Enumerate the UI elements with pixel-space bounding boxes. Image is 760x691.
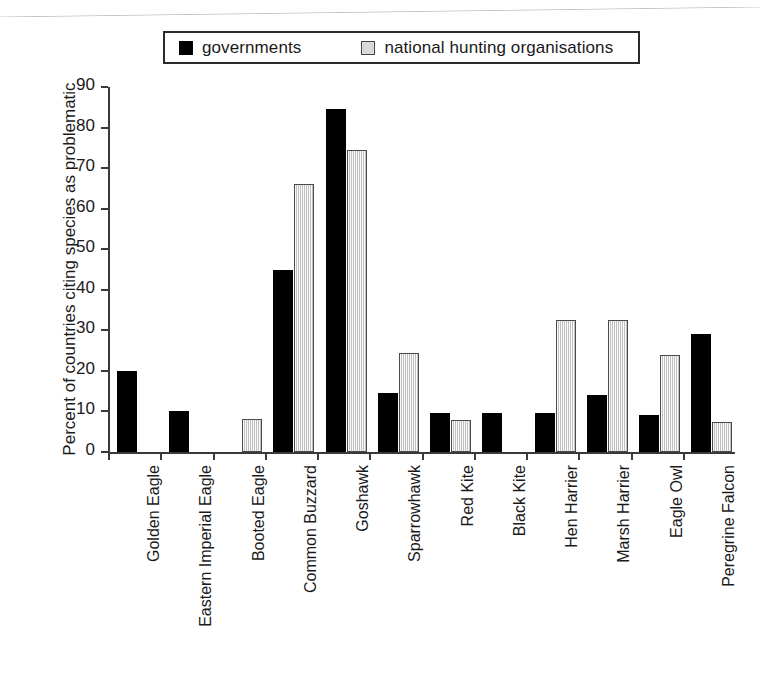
bar-national-hunting-organisations-peregrine-falcon (712, 422, 732, 452)
y-axis-tick-label: 0 (86, 440, 95, 460)
x-axis-label: Hen Harrier (563, 465, 581, 548)
x-axis-label: Golden Eagle (145, 465, 163, 562)
bar-governments-black-kite (482, 413, 502, 452)
x-axis-tick (578, 452, 580, 460)
x-axis-tick (108, 452, 110, 460)
x-axis-tick (317, 452, 319, 460)
bar-governments-peregrine-falcon (691, 334, 711, 452)
y-axis-tick-label: 90 (76, 75, 95, 95)
bar-national-hunting-organisations-eagle-owl (660, 355, 680, 452)
y-axis-tick: 60 (101, 208, 108, 210)
bar-governments-marsh-harrier (587, 395, 607, 452)
x-axis-tick (474, 452, 476, 460)
x-axis-label: Black Kite (511, 465, 529, 536)
y-axis-tick: 30 (101, 329, 108, 331)
bar-national-hunting-organisations-booted-eagle (242, 419, 262, 452)
chart-page: governments national hunting organisatio… (0, 0, 760, 691)
y-axis-tick: 70 (101, 167, 108, 169)
x-axis-tick (422, 452, 424, 460)
x-axis-tick (526, 452, 528, 460)
x-axis-tick (369, 452, 371, 460)
x-axis-label: Sparrowhawk (406, 465, 424, 562)
y-axis-tick-label: 50 (76, 237, 95, 257)
bar-national-hunting-organisations-red-kite (451, 420, 471, 452)
x-axis-label: Goshawk (354, 465, 372, 532)
bar-governments-eagle-owl (639, 415, 659, 452)
y-axis-tick: 0 (101, 451, 108, 453)
plot-area: 0102030405060708090 Golden EagleEastern … (108, 87, 735, 452)
y-axis-tick-label: 40 (76, 278, 95, 298)
y-axis-line (108, 87, 110, 452)
chart-legend: governments national hunting organisatio… (163, 31, 640, 64)
bar-governments-red-kite (430, 413, 450, 452)
bar-governments-sparrowhawk (378, 393, 398, 452)
bar-governments-eastern-imperial-eagle (169, 411, 189, 452)
legend-label-governments: governments (202, 38, 301, 58)
scan-artifact-line (0, 7, 760, 17)
y-axis-tick-label: 20 (76, 359, 95, 379)
bar-national-hunting-organisations-hen-harrier (556, 320, 576, 452)
x-axis-tick (160, 452, 162, 460)
bar-governments-goshawk (326, 109, 346, 452)
y-axis-tick-label: 10 (76, 399, 95, 419)
y-axis-tick-label: 70 (76, 156, 95, 176)
x-axis-tick (683, 452, 685, 460)
bar-national-hunting-organisations-sparrowhawk (399, 353, 419, 452)
x-axis-label: Booted Eagle (250, 465, 268, 561)
y-axis-tick: 90 (101, 86, 108, 88)
legend-swatch-governments-icon (179, 41, 193, 55)
x-axis-label: Peregrine Falcon (720, 465, 738, 587)
y-axis-tick: 40 (101, 289, 108, 291)
y-axis-tick-label: 60 (76, 197, 95, 217)
y-axis-tick: 50 (101, 248, 108, 250)
legend-label-hunting-organisations: national hunting organisations (384, 38, 613, 58)
x-axis-label: Eastern Imperial Eagle (197, 465, 215, 627)
legend-entry-governments: governments (179, 38, 301, 58)
legend-entry-hunting-organisations: national hunting organisations (361, 38, 613, 58)
x-axis-tick (631, 452, 633, 460)
y-axis-tick: 20 (101, 370, 108, 372)
x-axis-label: Common Buzzard (302, 465, 320, 593)
y-axis-tick: 10 (101, 410, 108, 412)
x-axis-tick (213, 452, 215, 460)
y-axis-tick-label: 80 (76, 116, 95, 136)
bar-governments-golden-eagle (117, 371, 137, 452)
x-axis-label: Marsh Harrier (615, 465, 633, 563)
bar-governments-hen-harrier (535, 413, 555, 452)
legend-swatch-hunting-organisations-icon (361, 41, 375, 55)
y-axis-tick-label: 30 (76, 318, 95, 338)
x-axis-label: Eagle Owl (668, 465, 686, 538)
bar-national-hunting-organisations-goshawk (347, 150, 367, 452)
x-axis-label: Red Kite (459, 465, 477, 526)
y-axis-tick: 80 (101, 127, 108, 129)
bar-national-hunting-organisations-marsh-harrier (608, 320, 628, 452)
x-axis-tick (265, 452, 267, 460)
bar-national-hunting-organisations-common-buzzard (294, 184, 314, 452)
bar-governments-common-buzzard (273, 270, 293, 452)
